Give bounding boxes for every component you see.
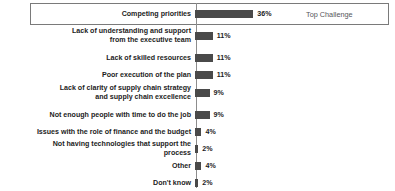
bar-area: 2%: [194, 141, 395, 157]
chart-row: Issues with the role of finance and the …: [0, 124, 395, 140]
category-label: Not having technologies that support the…: [31, 140, 194, 157]
chart-row: Not having technologies that support the…: [0, 141, 395, 157]
bar-area: 2%: [194, 175, 395, 191]
category-label: Lack of understanding and support from t…: [31, 27, 194, 44]
category-label: Issues with the role of finance and the …: [31, 128, 194, 137]
bar-value-label: 4%: [205, 128, 215, 136]
bar-chart: Competing priorities36%Lack of understan…: [0, 0, 395, 191]
bar: [195, 89, 210, 97]
bar: [195, 162, 201, 170]
category-label: Poor execution of the plan: [31, 71, 194, 80]
bar: [195, 145, 198, 153]
bar-value-label: 2%: [202, 179, 212, 187]
category-label: Lack of clarity of supply chain strategy…: [31, 84, 194, 101]
bar-area: 11%: [194, 67, 395, 83]
bar: [195, 71, 213, 79]
chart-row: Other4%: [0, 158, 395, 174]
bar-area: 9%: [194, 85, 395, 101]
bar-value-label: 9%: [214, 89, 224, 97]
category-label: Competing priorities: [31, 10, 194, 19]
bar-value-label: 11%: [217, 71, 231, 79]
bar-area: 9%: [194, 107, 395, 123]
bar-value-label: 9%: [214, 111, 224, 119]
bar-area: 11%: [194, 28, 395, 44]
bar: [195, 32, 213, 40]
chart-row: Lack of skilled resources11%: [0, 50, 395, 66]
chart-row: Lack of understanding and support from t…: [0, 28, 395, 44]
bar-value-label: 11%: [217, 54, 231, 62]
bar: [195, 128, 201, 136]
bar-area: 4%: [194, 158, 395, 174]
chart-row: Don't know2%: [0, 175, 395, 191]
category-label: Lack of skilled resources: [31, 54, 194, 63]
bar-value-label: 4%: [205, 162, 215, 170]
bar-value-label: 2%: [202, 145, 212, 153]
bar-area: 36%: [194, 6, 395, 22]
bar-value-label: 36%: [257, 10, 271, 18]
bar: [195, 179, 198, 187]
bar: [195, 54, 213, 62]
annotation-top-challenge: Top Challenge: [306, 10, 353, 19]
bar-area: 4%: [194, 124, 395, 140]
chart-row: Not enough people with time to do the jo…: [0, 107, 395, 123]
category-label: Not enough people with time to do the jo…: [31, 111, 194, 120]
bar-area: 11%: [194, 50, 395, 66]
chart-row: Poor execution of the plan11%: [0, 67, 395, 83]
bar: [195, 111, 210, 119]
bar: [195, 10, 253, 18]
chart-row: Lack of clarity of supply chain strategy…: [0, 85, 395, 101]
category-label: Other: [31, 162, 194, 171]
category-label: Don't know: [31, 179, 194, 188]
bar-value-label: 11%: [217, 32, 231, 40]
